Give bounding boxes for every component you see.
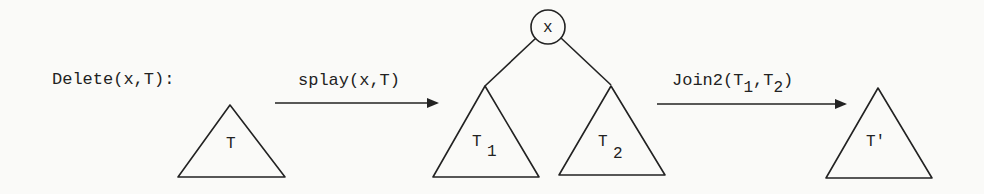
right-subtree-subscript: 2 bbox=[613, 145, 623, 163]
result-tree-label: T' bbox=[866, 133, 885, 151]
input-tree: T bbox=[178, 105, 285, 177]
left-subtree-label: T bbox=[472, 133, 482, 151]
splay-label: splay(x,T) bbox=[298, 71, 400, 90]
left-subtree: T 1 bbox=[433, 86, 539, 177]
splayed-tree: x T 1 T 2 bbox=[433, 10, 665, 177]
right-subtree: T 2 bbox=[559, 86, 665, 175]
join-label: Join2(T1,T2) bbox=[672, 71, 793, 97]
left-subtree-subscript: 1 bbox=[487, 143, 497, 161]
input-tree-label: T bbox=[226, 135, 236, 153]
root-node-label: x bbox=[543, 19, 553, 37]
splay-delete-diagram: Delete(x,T): T splay(x,T) x T 1 T bbox=[0, 0, 984, 194]
right-edge bbox=[561, 38, 611, 85]
left-edge bbox=[485, 38, 536, 86]
operation-title: Delete(x,T): bbox=[52, 70, 174, 89]
splay-arrow: splay(x,T) bbox=[275, 71, 437, 103]
result-tree: T' bbox=[826, 88, 932, 178]
right-subtree-label: T bbox=[598, 133, 608, 151]
join-arrow: Join2(T1,T2) bbox=[657, 71, 845, 104]
